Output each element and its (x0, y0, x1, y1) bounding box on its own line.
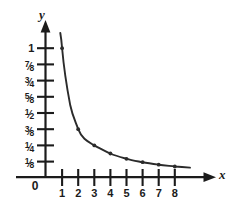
y-tick-den-5-8: 8 (30, 95, 34, 105)
y-tick-label-3-8: 3⁄8 (8, 124, 34, 139)
y-tick-den-3-4: 4 (30, 79, 34, 89)
y-tick-den-1-2: 2 (30, 111, 34, 121)
y-axis-title: y (39, 8, 45, 21)
hyperbola-chart: y x 0 1 7⁄8 3⁄4 5⁄8 1⁄2 3⁄8 1⁄4 1⁄8 1 2 … (0, 0, 237, 210)
data-point-markers (60, 46, 177, 168)
y-tick-label-7-8: 7⁄8 (8, 59, 34, 74)
y-tick-den-1-4: 4 (30, 144, 34, 154)
y-tick-den-3-8: 8 (30, 128, 34, 138)
y-tick-value-1: 1 (28, 43, 34, 54)
y-axis-tick-labels: 1 7⁄8 3⁄4 5⁄8 1⁄2 3⁄8 1⁄4 1⁄8 (7, 0, 34, 210)
x-axis-arrow-icon (204, 172, 217, 182)
y-tick-label-5-8: 5⁄8 (8, 91, 34, 106)
x-tick-label-8: 8 (166, 188, 184, 199)
y-tick-label-1: 1 (8, 43, 34, 54)
y-tick-label-1-2: 1⁄2 (8, 107, 34, 122)
y-tick-label-3-4: 3⁄4 (8, 75, 34, 90)
x-axis-title: x (219, 168, 226, 181)
y-tick-den-1-8: 8 (30, 160, 34, 170)
y-tick-label-1-8: 1⁄8 (8, 156, 34, 171)
reciprocal-curve (60, 33, 190, 168)
y-tick-den-7-8: 8 (30, 63, 34, 73)
y-tick-label-1-4: 1⁄4 (8, 140, 34, 155)
